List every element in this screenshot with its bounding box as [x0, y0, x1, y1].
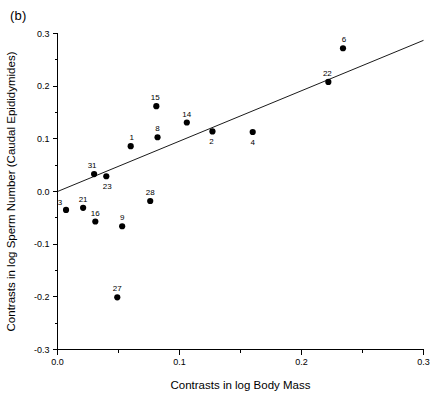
y-tick-label: -0.1 — [34, 239, 50, 249]
scatter-plot: 0.30.20.10.0-0.1-0.2-0.30.00.10.20.33213… — [0, 0, 447, 404]
data-point-label: 22 — [323, 69, 332, 78]
data-point-label: 21 — [79, 195, 88, 204]
data-point-label: 3 — [58, 198, 63, 207]
data-point-label: 15 — [151, 93, 160, 102]
regression-line — [58, 40, 424, 191]
figure-panel: (b) 0.30.20.10.0-0.1-0.2-0.30.00.10.20.3… — [0, 0, 447, 404]
data-point-label: 27 — [113, 284, 122, 293]
data-point-label: 28 — [146, 188, 155, 197]
data-point — [154, 134, 160, 140]
y-tick-label: 0.3 — [37, 29, 50, 39]
data-point — [91, 171, 97, 177]
x-tick-label: 0.2 — [295, 357, 308, 367]
y-tick-label: 0.2 — [37, 81, 50, 91]
data-point — [114, 294, 120, 300]
data-point — [80, 205, 86, 211]
data-point — [184, 119, 190, 125]
x-tick-label: 0.3 — [417, 357, 430, 367]
data-point — [92, 218, 98, 224]
data-point-label: 6 — [342, 35, 347, 44]
x-tick-label: 0.0 — [51, 357, 64, 367]
data-point-label: 1 — [129, 133, 134, 142]
data-point-label: 2 — [209, 137, 214, 146]
y-axis-title: Contrasts in log Sperm Number (Caudal Ep… — [5, 51, 17, 331]
data-point — [340, 45, 346, 51]
data-point-label: 31 — [88, 161, 97, 170]
y-tick-label: 0.1 — [37, 134, 50, 144]
data-point — [147, 198, 153, 204]
data-point — [103, 173, 109, 179]
data-point — [250, 129, 256, 135]
data-point-label: 23 — [103, 182, 112, 191]
axis-spines — [58, 34, 424, 350]
y-tick-label: -0.3 — [34, 345, 50, 355]
data-point — [119, 223, 125, 229]
data-point-label: 4 — [250, 138, 255, 147]
data-point-label: 16 — [91, 209, 100, 218]
data-point-label: 14 — [182, 110, 191, 119]
y-tick-label: 0.0 — [37, 187, 50, 197]
data-point — [63, 207, 69, 213]
data-point — [325, 79, 331, 85]
data-point — [128, 143, 134, 149]
x-axis-title: Contrasts in log Body Mass — [171, 379, 311, 391]
data-point — [153, 103, 159, 109]
x-tick-label: 0.1 — [173, 357, 186, 367]
data-point-label: 9 — [120, 213, 125, 222]
y-tick-label: -0.2 — [34, 292, 50, 302]
data-point-label: 8 — [155, 124, 160, 133]
data-point — [209, 128, 215, 134]
